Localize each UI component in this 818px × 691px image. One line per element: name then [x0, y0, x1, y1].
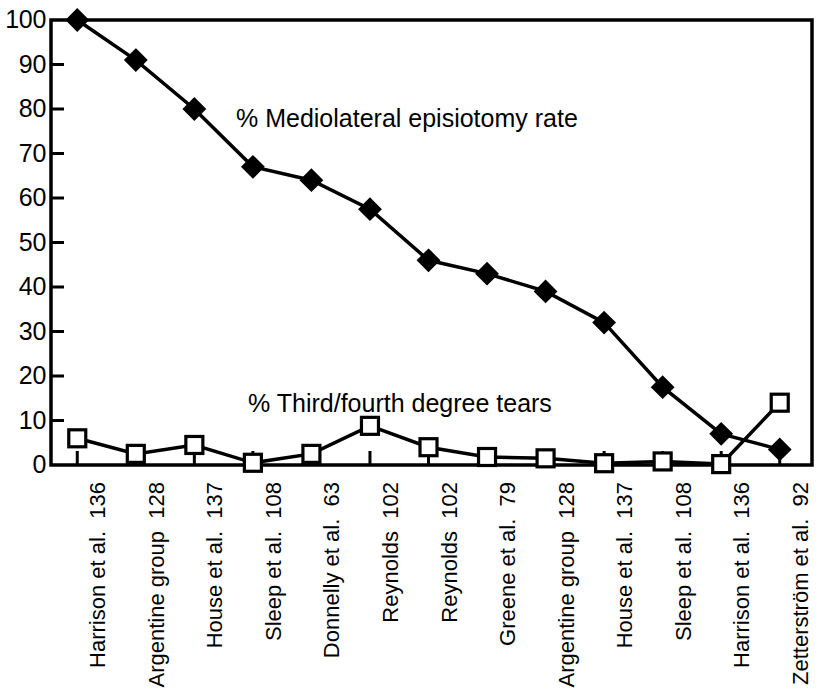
category-name: Harrison et al. — [85, 531, 110, 668]
series-label-third-fourth-degree-tears: % Third/fourth degree tears — [248, 391, 552, 416]
category-reference-number: 92 — [788, 482, 813, 506]
x-axis-category-label: Argentine group 128 — [146, 482, 168, 691]
x-axis-category-label: House et al. 137 — [204, 482, 226, 691]
chart-figure: 0102030405060708090100 Harrison et al. 1… — [0, 0, 818, 691]
category-reference-number: 102 — [378, 482, 403, 519]
category-reference-number: 128 — [554, 482, 579, 519]
x-axis-category-label: Donnelly et al. 63 — [321, 482, 343, 691]
category-reference-number: 136 — [729, 482, 754, 519]
category-reference-number: 136 — [85, 482, 110, 519]
category-reference-number: 137 — [202, 482, 227, 519]
x-axis-category-label: Reynolds 102 — [439, 482, 461, 691]
category-reference-number: 108 — [261, 482, 286, 519]
x-axis-category-label: Greene et al. 79 — [497, 482, 519, 691]
category-reference-number: 63 — [319, 482, 344, 506]
category-name: Sleep et al. — [671, 531, 696, 641]
x-axis-category-label: Sleep et al. 108 — [673, 482, 695, 691]
category-name: Argentine group — [554, 531, 579, 688]
category-name: Donnelly et al. — [319, 519, 344, 658]
category-name: House et al. — [202, 531, 227, 648]
series-label-mediolateral-episiotomy-rate: % Mediolateral episiotomy rate — [236, 106, 578, 131]
category-name: Reynolds — [378, 531, 403, 623]
category-reference-number: 102 — [437, 482, 462, 519]
x-axis-category-label: Argentine group 128 — [556, 482, 578, 691]
category-name: Reynolds — [437, 531, 462, 623]
x-axis-category-label: Harrison et al. 136 — [87, 482, 109, 691]
category-reference-number: 137 — [612, 482, 637, 519]
category-name: Harrison et al. — [729, 531, 754, 668]
category-name: House et al. — [612, 531, 637, 648]
category-name: Sleep et al. — [261, 531, 286, 641]
category-name: Argentine group — [144, 531, 169, 688]
category-name: Zetterström et al. — [788, 519, 813, 685]
category-reference-number: 108 — [671, 482, 696, 519]
x-axis-category-label: House et al. 137 — [614, 482, 636, 691]
category-name: Greene et al. — [495, 519, 520, 646]
x-axis-category-label: Harrison et al. 136 — [731, 482, 753, 691]
x-axis-category-label: Sleep et al. 108 — [263, 482, 285, 691]
x-axis-category-label: Reynolds 102 — [380, 482, 402, 691]
x-axis-category-label: Zetterström et al. 92 — [790, 482, 812, 691]
category-reference-number: 128 — [144, 482, 169, 519]
category-reference-number: 79 — [495, 482, 520, 506]
